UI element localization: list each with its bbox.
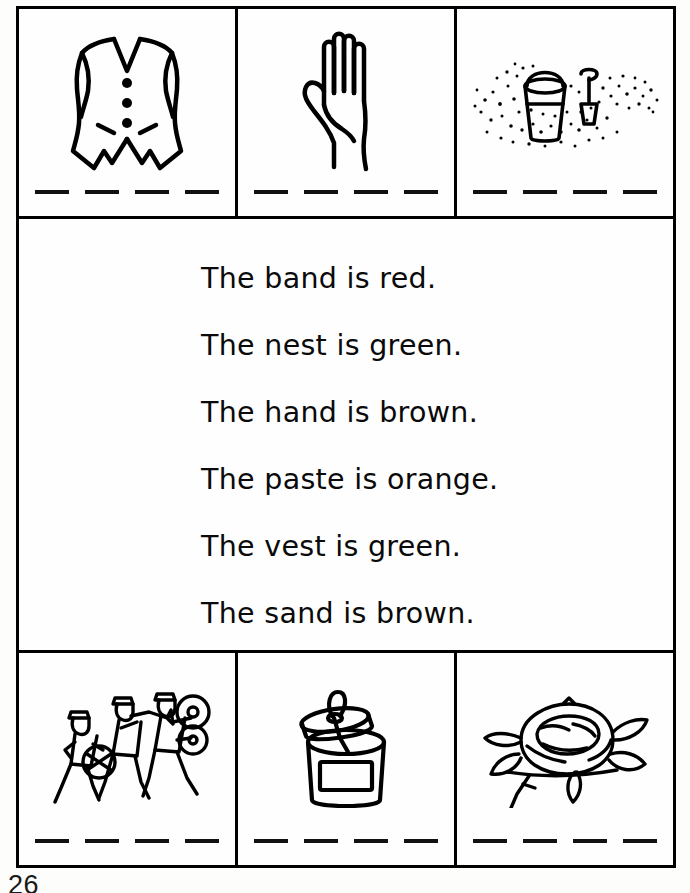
blank-dash: [404, 839, 438, 843]
blank-dash: [523, 839, 557, 843]
blank-dash: [623, 839, 657, 843]
paste-jar-icon: [238, 653, 454, 839]
sentence-line: The band is red.: [201, 245, 673, 312]
worksheet-page: The band is red. The nest is green. The …: [0, 0, 690, 893]
blank-dash: [254, 190, 288, 194]
blank-dash: [135, 190, 169, 194]
blank-dash: [135, 839, 169, 843]
picture-cell-band[interactable]: [19, 653, 235, 865]
picture-cell-vest[interactable]: [19, 9, 235, 216]
blank-dash: [573, 190, 607, 194]
bottom-picture-row: [19, 653, 673, 865]
picture-cell-paste[interactable]: [235, 653, 454, 865]
blank-dash: [473, 190, 507, 194]
answer-blank-sand[interactable]: [457, 190, 673, 194]
worksheet-frame: The band is red. The nest is green. The …: [16, 6, 676, 868]
blank-dash: [573, 839, 607, 843]
blank-dash: [35, 839, 69, 843]
blank-dash: [254, 839, 288, 843]
blank-dash: [304, 839, 338, 843]
blank-dash: [304, 190, 338, 194]
answer-blank-paste[interactable]: [238, 839, 454, 843]
sentence-line: The hand is brown.: [201, 379, 673, 446]
picture-cell-nest[interactable]: [454, 653, 673, 865]
blank-dash: [185, 190, 219, 194]
blank-dash: [354, 839, 388, 843]
answer-blank-hand[interactable]: [238, 190, 454, 194]
answer-blank-vest[interactable]: [19, 190, 235, 194]
picture-cell-hand[interactable]: [235, 9, 454, 216]
answer-blank-nest[interactable]: [457, 839, 673, 843]
blank-dash: [623, 190, 657, 194]
sand-pail-icon: [457, 9, 673, 190]
blank-dash: [523, 190, 557, 194]
blank-dash: [185, 839, 219, 843]
picture-cell-sand[interactable]: [454, 9, 673, 216]
top-picture-row: [19, 9, 673, 219]
page-number: 26: [8, 872, 39, 893]
hand-icon: [238, 9, 454, 190]
blank-dash: [35, 190, 69, 194]
sentence-block: The band is red. The nest is green. The …: [19, 219, 673, 653]
answer-blank-band[interactable]: [19, 839, 235, 843]
blank-dash: [85, 839, 119, 843]
blank-dash: [354, 190, 388, 194]
blank-dash: [404, 190, 438, 194]
sentence-line: The paste is orange.: [201, 446, 673, 513]
vest-icon: [19, 9, 235, 190]
birds-nest-icon: [457, 653, 673, 839]
blank-dash: [85, 190, 119, 194]
sentence-line: The nest is green.: [201, 312, 673, 379]
marching-band-icon: [19, 653, 235, 839]
sentence-line: The sand is brown.: [201, 580, 673, 647]
blank-dash: [473, 839, 507, 843]
sentence-line: The vest is green.: [201, 513, 673, 580]
